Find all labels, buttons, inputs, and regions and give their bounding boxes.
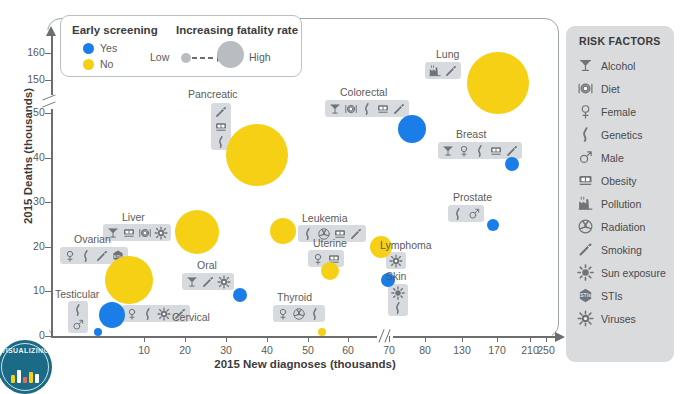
x-axis-title: 2015 New diagnoses (thousands) [140, 358, 470, 370]
radiation-icon [576, 218, 594, 236]
x-tick [425, 336, 426, 342]
plate-cutlery-icon [138, 226, 152, 240]
risk-factor-item-diet: Diet [566, 77, 674, 100]
legend-box: Early screening Yes No Increasing fatali… [60, 15, 302, 77]
martini-glass-icon [576, 57, 594, 75]
cigarette-icon [201, 275, 215, 289]
virus-icon [576, 310, 594, 328]
cigarette-icon [505, 144, 519, 158]
y-axis-arrow-icon [46, 26, 56, 36]
logo-bars-icon [11, 367, 39, 383]
x-axis-line [51, 336, 559, 338]
martini-glass-icon [185, 275, 199, 289]
point-label-leukemia: Leukemia [302, 212, 348, 224]
y-tick-label: 10 [7, 284, 45, 296]
mars-symbol-icon [71, 318, 85, 332]
x-tick-label: 30 [206, 344, 246, 356]
bubble-colorectal[interactable] [398, 115, 426, 143]
risk-factor-label: Radiation [601, 221, 645, 233]
legend-label-no: No [100, 58, 113, 70]
risk-factor-item-pollution: Pollution [566, 192, 674, 215]
bubble-testicular[interactable] [94, 328, 102, 336]
point-label-breast: Breast [456, 128, 486, 140]
mars-symbol-icon [467, 207, 481, 221]
bubble-liver[interactable] [175, 210, 219, 254]
logo-text: VISUALIZING [0, 347, 52, 354]
cigarette-icon [576, 241, 594, 259]
legend-bubble-small [181, 53, 191, 63]
legend-fatality-high-label: High [249, 51, 271, 63]
risk-factors-list: AlcoholDietFemaleGeneticsMaleObesityPoll… [566, 54, 674, 330]
risk-factor-label: Sun exposure [601, 267, 666, 279]
risk-factor-item-sun-exposure: Sun exposure [566, 261, 674, 284]
weight-scale-icon [576, 172, 594, 190]
bubble-cervical[interactable] [99, 302, 125, 328]
dna-helix-icon [214, 135, 228, 149]
bubble-oral[interactable] [233, 288, 247, 302]
x-tick [185, 336, 186, 342]
dna-helix-icon [141, 307, 155, 321]
risk-chip-testicular [68, 301, 88, 333]
virus-icon [157, 307, 171, 321]
plate-cutlery-icon [344, 102, 358, 116]
risk-chip-colorectal [325, 100, 409, 117]
risk-factors-title: RISK FACTORS [579, 35, 674, 47]
bubble-breast[interactable] [505, 157, 519, 171]
risk-factor-item-stis: STIsSTIs [566, 284, 674, 307]
risk-factor-label: Obesity [601, 175, 637, 187]
x-tick [144, 336, 145, 342]
point-label-colorectal: Colorectal [340, 86, 387, 98]
bubble-pancreatic[interactable] [226, 124, 288, 186]
risk-chip-oral [182, 273, 234, 290]
x-tick-label: 60 [328, 344, 368, 356]
legend-screening-title: Early screening [72, 24, 158, 36]
risk-factors-panel: RISK FACTORS AlcoholDietFemaleGeneticsMa… [566, 26, 674, 362]
point-label-testicular: Testicular [55, 288, 99, 300]
cigarette-icon [214, 105, 228, 119]
venus-symbol-icon [457, 144, 471, 158]
risk-chip-lung [425, 62, 461, 79]
bubble-thyroid[interactable] [318, 328, 326, 336]
risk-factor-label: Pollution [601, 198, 641, 210]
risk-chip-thyroid [273, 305, 325, 322]
risk-factor-item-obesity: Obesity [566, 169, 674, 192]
point-label-uterine: Uterine [313, 237, 347, 249]
mars-symbol-icon [576, 149, 594, 167]
dna-helix-icon [473, 144, 487, 158]
point-label-cervical: Cervical [172, 311, 210, 323]
venus-symbol-icon [276, 307, 290, 321]
x-tick [267, 336, 268, 342]
martini-glass-icon [441, 144, 455, 158]
x-axis-arrow-icon [555, 332, 565, 342]
y-tick-label: 160 [7, 46, 45, 58]
weight-scale-icon [214, 120, 228, 134]
point-label-lung: Lung [436, 48, 459, 60]
point-label-liver: Liver [122, 211, 145, 223]
factory-icon [428, 64, 442, 78]
x-tick-label: 40 [247, 344, 287, 356]
cigarette-icon [392, 102, 406, 116]
bubble-prostate[interactable] [487, 219, 499, 231]
radiation-icon [292, 307, 306, 321]
y-tick-label: 50 [7, 106, 45, 118]
legend-item-no: No [83, 58, 113, 70]
point-label-prostate: Prostate [453, 191, 492, 203]
point-label-pancreatic: Pancreatic [188, 88, 238, 100]
risk-factor-label: Alcohol [601, 60, 635, 72]
dna-helix-icon [576, 126, 594, 144]
y-tick [45, 158, 51, 159]
martini-glass-icon [328, 102, 342, 116]
sun-icon [576, 264, 594, 282]
virus-icon [154, 226, 168, 240]
bubble-ovarian[interactable] [105, 256, 153, 304]
sun-icon [391, 286, 405, 300]
bubble-lung[interactable] [467, 52, 529, 114]
risk-factor-label: Female [601, 106, 636, 118]
risk-factor-label: Diet [601, 83, 620, 95]
bubble-leukemia[interactable] [270, 218, 296, 244]
venus-symbol-icon [311, 252, 325, 266]
dna-helix-icon [308, 307, 322, 321]
bubble-uterine[interactable] [321, 262, 339, 280]
x-tick [389, 336, 390, 342]
